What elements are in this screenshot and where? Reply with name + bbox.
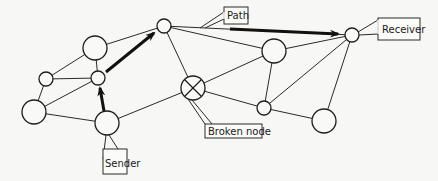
label-receiver: Receiver — [358, 18, 426, 40]
routing-path — [100, 29, 338, 111]
label-broken-node-text: Broken node — [208, 126, 271, 137]
node-top-left-big — [83, 36, 107, 60]
edge — [193, 51, 274, 88]
path-arrow-sender-to-mid — [100, 88, 104, 111]
network-diagram: Path Receiver Sender Broken node — [0, 0, 438, 181]
path-arrow-mid-to-top — [106, 33, 154, 72]
label-path: Path — [200, 7, 249, 28]
node-right-bottom-small — [257, 101, 271, 115]
label-receiver-text: Receiver — [382, 24, 426, 35]
edge — [107, 88, 193, 123]
path-arrow-top-to-receiver — [230, 29, 338, 34]
node-mid-small — [91, 71, 105, 85]
label-sender: Sender — [103, 135, 141, 174]
edge — [324, 35, 352, 121]
node-left-small — [39, 72, 53, 86]
node-receiver — [345, 28, 359, 42]
node-right-top-big — [262, 39, 286, 63]
node-top — [157, 19, 171, 33]
node-right-bottom-big — [312, 109, 336, 133]
edge — [46, 78, 98, 79]
label-path-text: Path — [227, 10, 249, 21]
node-broken — [181, 76, 205, 100]
node-bottom-left-big — [22, 100, 46, 124]
label-sender-text: Sender — [105, 158, 141, 169]
edges — [34, 26, 352, 123]
node-sender — [95, 111, 119, 135]
